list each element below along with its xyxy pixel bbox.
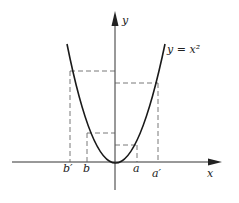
dashed-guides [70,71,158,162]
x-axis-arrow-icon [208,159,222,166]
tick-label-b: b [83,162,90,175]
y-axis-arrow-icon [112,11,119,26]
tick-label-a-prime: a′ [152,167,162,180]
curve-label: y = x² [166,43,200,56]
parabola-diagram: y = x² y x b′ b a a′ [0,0,239,203]
y-axis-label: y [121,14,129,27]
x-axis-label: x [207,167,214,180]
tick-label-b-prime: b′ [63,162,73,175]
tick-label-a: a [133,162,140,175]
